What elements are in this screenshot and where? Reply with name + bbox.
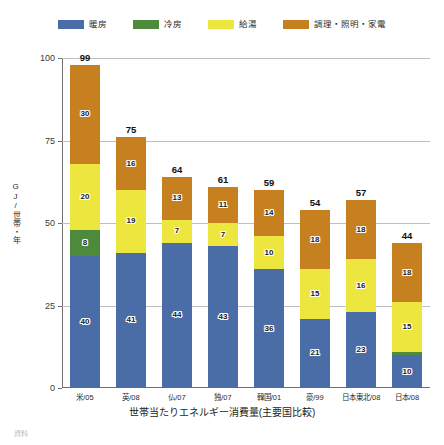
bar-column[interactable]: 57181623 [342,58,380,388]
bar-stack: 6413744 [162,177,192,388]
x-axis-title: 世帯当たりエネルギー消費量(主要国比較) [0,404,444,419]
bar-group: 9930208407516194164137446111743591410365… [62,58,430,388]
bar-segment-label: 14 [265,209,274,217]
bar-segment-label: 8 [83,239,87,247]
bar-stack: 54181521 [300,210,330,388]
y-tick-label-50: 50 [45,218,55,228]
bar-segment[interactable]: 41 [116,253,146,388]
bar-total-label: 75 [126,124,137,135]
bar-segment[interactable]: 14 [254,190,284,236]
bar-segment-label: 15 [311,290,320,298]
x-tick-label: 日本/08 [388,391,426,402]
bar-total-label: 44 [402,230,413,241]
bar-total-label: 57 [356,187,367,198]
x-tick-label: 日本東北/08 [342,391,380,402]
bar-segment[interactable]: 10 [254,236,284,269]
legend-label-cooling: 冷房 [164,20,182,29]
source-note: 資料 [14,428,28,438]
bar-segment[interactable]: 18 [346,200,376,259]
legend-swatch-appliances [283,20,309,29]
bar-segment[interactable]: 23 [346,312,376,388]
bar-stack: 441815110 [392,243,422,388]
bar-segment[interactable]: 15 [300,269,330,319]
legend-item-heating: 暖房 [58,20,107,29]
bar-segment-label: 30 [81,110,90,118]
bar-column[interactable]: 54181521 [296,58,334,388]
bar-segment[interactable]: 40 [70,256,100,388]
bar-stack: 75161941 [116,137,146,388]
x-tick-label: 英/08 [112,391,150,402]
bar-segment-label: 18 [403,269,412,277]
legend-swatch-hot_water [208,20,234,29]
bar-segment-label: 7 [221,231,225,239]
bar-segment-label: 11 [219,201,227,209]
bar-segment-label: 18 [311,236,320,244]
x-tick-label: 韓国/01 [250,391,288,402]
y-axis-title: GJ/世帯・年 [10,182,21,245]
bar-segment[interactable]: 20 [70,164,100,230]
bar-column[interactable]: 6413744 [158,58,196,388]
y-tick-label-25: 25 [45,301,55,311]
bar-total-label: 99 [80,52,91,63]
x-tick-label: 米/05 [66,391,104,402]
bar-segment-label: 36 [265,325,274,333]
x-axis-tick-labels: 米/05英/08仏/07独/07韓国/01豪/99日本東北/08日本/08 [62,391,430,402]
bar-stack: 6111743 [208,187,238,388]
bar-column[interactable]: 6111743 [204,58,242,388]
legend-swatch-heating [58,20,84,29]
bar-segment[interactable]: 16 [116,137,146,190]
bar-segment[interactable]: 11 [208,187,238,223]
bar-segment[interactable]: 7 [162,220,192,243]
bar-segment-label: 16 [127,160,136,168]
bar-column[interactable]: 441815110 [388,58,426,388]
bar-stack: 993020840 [70,65,100,388]
bar-segment[interactable]: 21 [300,319,330,388]
x-tick-label: 独/07 [204,391,242,402]
bar-segment-label: 19 [127,217,136,225]
bar-segment-label: 13 [173,194,182,202]
x-tick-label: 豪/99 [296,391,334,402]
legend-label-hot_water: 給湯 [239,20,257,29]
y-tick-label-75: 75 [45,136,55,146]
bar-stack: 57181623 [346,200,376,388]
bar-segment-label: 7 [175,227,179,235]
bar-segment-label: 18 [357,226,366,234]
legend-item-appliances: 調理・照明・家電 [283,20,386,29]
bar-total-label: 61 [218,174,229,185]
bar-segment-label: 21 [311,349,320,357]
bar-segment[interactable]: 10 [392,355,422,388]
bar-segment[interactable]: 19 [116,190,146,253]
bar-segment-label: 10 [403,368,412,376]
bar-segment[interactable]: 43 [208,246,238,388]
bar-segment[interactable]: 13 [162,177,192,220]
bar-segment-label: 43 [219,313,228,321]
x-tick-label: 仏/07 [158,391,196,402]
legend-label-appliances: 調理・照明・家電 [314,20,386,29]
bar-segment-label: 15 [403,323,412,331]
bar-segment-label: 44 [173,311,182,319]
bar-stack: 59141036 [254,190,284,388]
bar-segment[interactable]: 8 [70,230,100,256]
bar-segment-label: 41 [127,316,136,324]
chart-legend: 暖房冷房給湯調理・照明・家電 [0,14,444,34]
y-tick-label-100: 100 [40,53,55,63]
bar-segment[interactable]: 15 [392,302,422,352]
bar-total-label: 59 [264,177,275,188]
bar-column[interactable]: 75161941 [112,58,150,388]
bar-total-label: 54 [310,197,321,208]
bar-segment[interactable]: 44 [162,243,192,388]
bar-segment-label: 10 [265,249,274,257]
bar-column[interactable]: 59141036 [250,58,288,388]
bar-column[interactable]: 993020840 [66,58,104,388]
bar-total-label: 64 [172,164,183,175]
legend-item-hot_water: 給湯 [208,20,257,29]
bar-segment[interactable]: 18 [300,210,330,269]
bar-segment[interactable]: 30 [70,65,100,164]
bar-segment-label: 40 [81,318,90,326]
bar-segment[interactable]: 18 [392,243,422,302]
bar-segment[interactable]: 7 [208,223,238,246]
plot-area: 0255075100 99302084075161941641374461117… [62,58,430,388]
bar-segment[interactable]: 36 [254,269,284,388]
bar-segment[interactable]: 16 [346,259,376,312]
legend-swatch-cooling [133,20,159,29]
